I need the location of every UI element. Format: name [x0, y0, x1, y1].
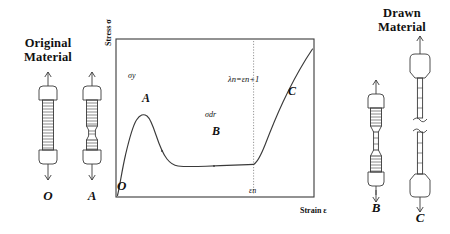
figure-root: Original Material: [0, 0, 450, 234]
specimen-O: [28, 72, 68, 184]
drawn-material-heading: Drawn Material: [356, 6, 448, 34]
original-material-heading: Original Material: [2, 36, 94, 64]
specimen-label-C: C: [408, 210, 432, 226]
specimen-A: [72, 72, 112, 184]
natural-draw-strain-label: εn: [249, 186, 256, 195]
origin-label: O: [117, 178, 126, 194]
natural-draw-ratio-formula: λn=εn+1: [228, 74, 259, 84]
specimen-B: [356, 78, 396, 196]
specimen-label-O: O: [36, 188, 60, 204]
yield-stress-label: σy: [128, 71, 136, 80]
curve-label-C: C: [288, 84, 296, 99]
curve-point-b: [213, 165, 215, 167]
curve-point-a: [161, 150, 163, 152]
stress-strain-plot: [110, 35, 320, 205]
specimen-C: [398, 32, 442, 214]
curve-label-B: B: [212, 124, 220, 139]
x-axis-label: Strain ε: [300, 206, 327, 215]
curve-label-A: A: [142, 91, 150, 106]
specimen-label-A: A: [80, 188, 104, 204]
specimen-label-B: B: [364, 200, 388, 216]
drawing-stress-label: σdr: [205, 110, 216, 119]
